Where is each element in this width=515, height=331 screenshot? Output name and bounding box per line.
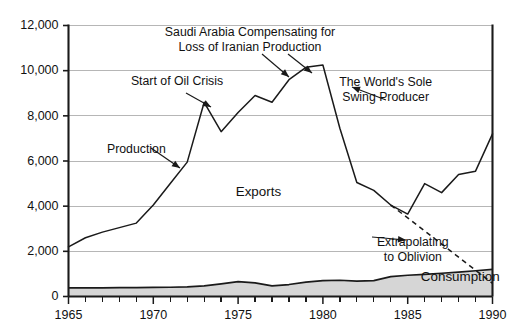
x-axis-label-1970: 1970	[139, 308, 167, 322]
x-axis-label-1990: 1990	[479, 308, 507, 322]
annotation-exports-label: Exports	[236, 184, 282, 199]
annotation-oil-crisis: Start of Oil Crisis	[131, 74, 223, 88]
annotation-production: Production	[107, 142, 166, 156]
annotation-extrapolating: Extrapolatingto Oblivion	[377, 235, 449, 264]
annotation-swing-producer: The World's SoleSwing Producer	[339, 75, 432, 104]
y-axis-label-4000: 4,000	[27, 199, 58, 213]
annotation-consumption-label: Consumption	[421, 269, 500, 284]
y-axis-label-10000: 10,000	[20, 63, 58, 77]
y-axis-label-6000: 6,000	[27, 154, 58, 168]
x-axis-label-1980: 1980	[309, 308, 337, 322]
y-axis-label-2000: 2,000	[27, 244, 58, 258]
y-axis-label-8000: 8,000	[27, 109, 58, 123]
y-axis-label-12000: 12,000	[20, 18, 58, 32]
chart-canvas: 02,0004,0006,0008,00010,00012,000 196519…	[0, 0, 515, 331]
x-axis-label-1985: 1985	[394, 308, 422, 322]
y-axis-label-0: 0	[52, 289, 59, 303]
oil-production-chart: 02,0004,0006,0008,00010,00012,000 196519…	[0, 0, 515, 331]
annotation-saudi: Saudi Arabia Compensating forLoss of Ira…	[165, 25, 335, 54]
x-axis-label-1975: 1975	[224, 308, 252, 322]
x-axis-label-1965: 1965	[55, 308, 83, 322]
